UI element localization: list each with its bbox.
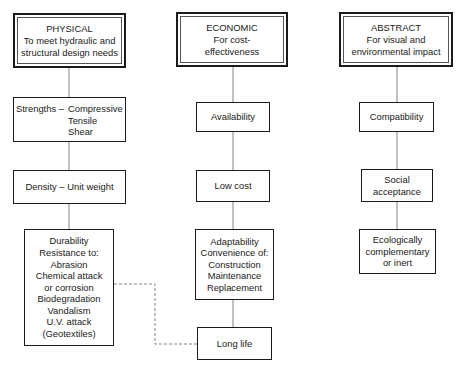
adaptability-line-4: Maintenance [208,270,262,282]
economic-subtitle-line-2: effectiveness [205,46,260,58]
durability-line-9: (Geotextiles) [42,328,95,340]
durability-line-7: Vandalism [47,305,90,317]
low-cost-box: Low cost [196,170,270,202]
durability-line-1: Durability [49,235,88,247]
physical-subtitle-line-1: To meet hydraulic and [24,35,116,47]
durability-line-6: Biodegradation [37,293,100,305]
adaptability-line-1: Adaptability [210,236,258,248]
strength-tensile: Tensile [68,115,123,127]
density-box: Density – Unit weight [13,170,126,204]
durability-box: Durability Resistance to: Abrasion Chemi… [24,229,114,346]
compatibility-text: Compatibility [370,111,424,123]
density-text: Density – Unit weight [25,181,113,193]
abstract-subtitle-line-2: environmental impact [351,46,440,58]
economic-subtitle-line-1: For cost- [214,34,251,46]
social-line-1: Social [384,174,410,186]
long-life-box: Long life [197,327,272,360]
abstract-title: ABSTRACT [371,22,421,34]
adaptability-line-5: Replacement [207,282,262,294]
durability-line-4: Chemical attack [36,270,103,282]
adaptability-line-2: Convenience of: [201,247,269,259]
strength-compressive: Compressive [68,103,123,115]
strengths-label: Strengths – [16,103,64,115]
compatibility-box: Compatibility [359,102,434,132]
availability-text: Availability [211,111,255,123]
physical-title: PHYSICAL [46,23,92,35]
durability-line-5: or corrosion [44,282,94,294]
ecological-box: Ecologically complementary or inert [359,229,436,274]
abstract-subtitle-line-1: For visual and [367,34,426,46]
ecological-line-1: Ecologically [373,234,423,246]
availability-box: Availability [196,102,270,132]
economic-header-box: ECONOMIC For cost- effectiveness [176,12,288,67]
abstract-header-box: ABSTRACT For visual and environmental im… [339,12,453,67]
physical-subtitle-line-2: structural design needs [21,47,118,59]
strengths-box: Strengths – Compressive Tensile Shear [13,97,126,142]
adaptability-line-3: Construction [208,259,261,271]
ecological-line-3: or inert [383,257,412,269]
strength-shear: Shear [68,126,123,138]
social-line-2: acceptance [373,186,421,198]
durability-line-8: U.V. attack [47,316,92,328]
ecological-line-2: complementary [365,246,429,258]
social-acceptance-box: Social acceptance [361,169,433,202]
durability-line-3: Abrasion [50,259,87,271]
durability-line-2: Resistance to: [39,247,98,259]
economic-title: ECONOMIC [206,22,258,34]
long-life-text: Long life [217,338,252,350]
adaptability-box: Adaptability Convenience of: Constructio… [195,229,274,300]
physical-header-box: PHYSICAL To meet hydraulic and structura… [13,13,126,68]
low-cost-text: Low cost [215,180,252,192]
